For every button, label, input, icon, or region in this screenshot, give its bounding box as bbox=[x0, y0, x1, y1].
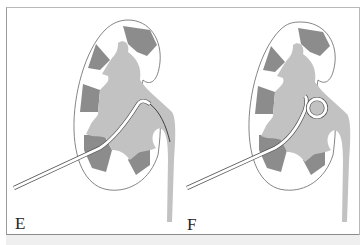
kidney-diagram-f bbox=[181, 0, 362, 245]
panel-label-e: E bbox=[15, 214, 25, 234]
panel-label-f: F bbox=[187, 215, 196, 235]
kidney-diagram-e bbox=[0, 0, 181, 245]
